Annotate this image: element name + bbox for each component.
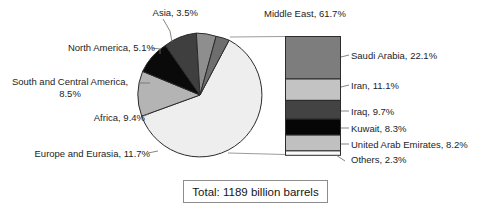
bar-segment-others[interactable]: [286, 151, 341, 155]
bar-segment-iraq[interactable]: [286, 100, 341, 119]
bar-label-iraq: Iraq, 9.7%: [351, 106, 394, 118]
bar-label-saudi-arabia: Saudi Arabia, 22.1%: [351, 50, 437, 62]
pie-chart: [138, 33, 262, 157]
bar-label-kuwait: Kuwait, 8.3%: [351, 123, 406, 135]
total-label: Total: 1189 billion barrels: [192, 186, 318, 198]
pie-label-asia: Asia, 3.5%: [110, 7, 198, 19]
connector-bottom: [228, 153, 285, 155]
leader-others: [336, 155, 345, 161]
pie-label-north-america: North America, 5.1%: [47, 42, 155, 54]
leader-asia: [163, 19, 172, 42]
bar-segment-kuwait[interactable]: [286, 119, 341, 135]
exploded-pie-bar-figure: Asia, 3.5% North America, 5.1% South and…: [0, 0, 490, 221]
bar-label-united-arab-emirates: United Arab Emirates, 8.2%: [351, 139, 468, 151]
pie-label-middle-east: Middle East, 61.7%: [264, 8, 374, 20]
bar-segment-iran[interactable]: [286, 79, 341, 100]
bar-label-others: Others, 2.3%: [351, 154, 406, 166]
middle-east-stacked-bar: [286, 37, 341, 156]
leader-saudi-arabia: [341, 55, 349, 57]
bar-segment-united-arab-emirates[interactable]: [286, 135, 341, 151]
connector-top: [230, 37, 285, 38]
bar-segment-saudi-arabia[interactable]: [286, 37, 341, 80]
pie-label-south-and-central-america: South and Central America, 8.5%: [2, 76, 138, 99]
total-box: Total: 1189 billion barrels: [183, 180, 328, 203]
pie-label-europe-and-eurasia: Europe and Eurasia, 11.7%: [22, 148, 150, 160]
bar-label-iran: Iran, 11.1%: [351, 80, 399, 92]
pie-label-africa: Africa, 9.4%: [63, 112, 145, 124]
leader-iran: [341, 85, 349, 87]
